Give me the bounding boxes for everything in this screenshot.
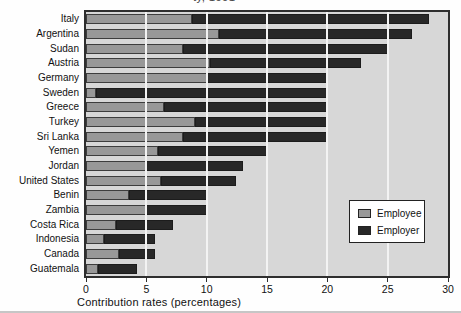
x-axis: 051015202530 bbox=[0, 0, 461, 313]
gridline bbox=[206, 12, 208, 276]
x-tick-label: 20 bbox=[314, 283, 340, 295]
legend-label-employee: Employee bbox=[377, 208, 421, 219]
x-tick-label: 25 bbox=[375, 283, 401, 295]
legend-item-employer: Employer bbox=[358, 225, 417, 236]
employer-swatch-icon bbox=[358, 226, 371, 235]
employee-swatch-icon bbox=[358, 209, 371, 218]
x-tick-label: 10 bbox=[194, 283, 220, 295]
x-tick-mark bbox=[327, 278, 328, 282]
legend-label-employer: Employer bbox=[377, 225, 419, 236]
x-tick-label: 0 bbox=[73, 283, 99, 295]
chart-figure: ty, 1991 ItalyArgentinaSudanAustriaGerma… bbox=[0, 0, 461, 313]
x-tick-mark bbox=[146, 278, 147, 282]
x-tick-mark bbox=[267, 278, 268, 282]
x-tick-label: 5 bbox=[133, 283, 159, 295]
x-tick-label: 30 bbox=[435, 283, 461, 295]
gridline bbox=[326, 12, 328, 276]
legend-item-employee: Employee bbox=[358, 208, 417, 219]
x-axis-title: Contribution rates (percentages) bbox=[77, 296, 241, 308]
x-tick-mark bbox=[86, 278, 87, 282]
gridline bbox=[266, 12, 268, 276]
legend-box: Employee Employer bbox=[349, 200, 425, 243]
x-tick-mark bbox=[206, 278, 207, 282]
x-tick-mark bbox=[387, 278, 388, 282]
gridline bbox=[145, 12, 147, 276]
x-tick-mark bbox=[448, 278, 449, 282]
x-tick-label: 15 bbox=[254, 283, 280, 295]
